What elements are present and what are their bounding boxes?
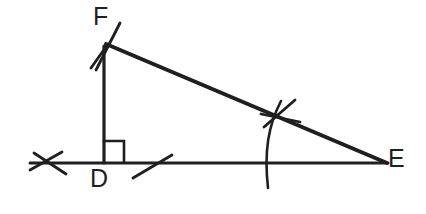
right-angle-square-icon — [104, 141, 124, 162]
arc-tick-mid-b-icon — [261, 114, 300, 122]
construction-tick-group — [30, 23, 300, 178]
vertex-label-f: F — [93, 4, 108, 29]
geometry-diagram: F D E — [0, 0, 426, 214]
hypotenuse-line-FE — [106, 44, 387, 163]
arc-tick-right-a-icon — [133, 155, 172, 178]
vertex-label-e: E — [388, 146, 405, 171]
vertex-label-d: D — [90, 166, 108, 191]
geometry-canvas — [0, 0, 426, 214]
